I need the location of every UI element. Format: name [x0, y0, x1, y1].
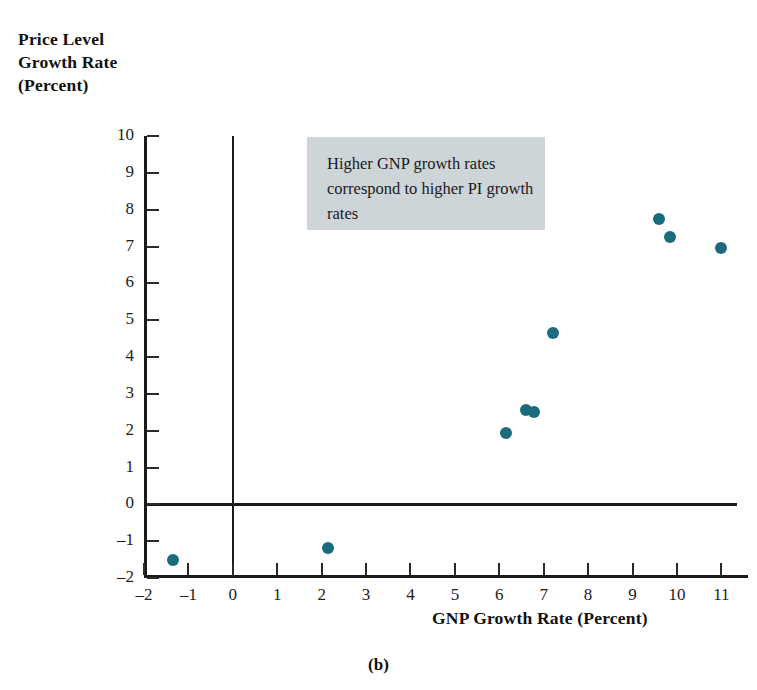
- x-tick: [498, 563, 500, 575]
- y-tick: [147, 246, 159, 248]
- y-tick-label: 8: [100, 199, 134, 219]
- x-tick: [143, 563, 145, 575]
- x-tick-label: 5: [438, 585, 472, 605]
- x-tick: [321, 563, 323, 575]
- x-tick: [454, 563, 456, 575]
- data-point: [664, 231, 676, 243]
- x-tick-label: 0: [216, 585, 250, 605]
- figure-scatter-plot: Price Level Growth Rate (Percent) GNP Gr…: [0, 0, 757, 690]
- figure-caption: (b): [0, 655, 757, 675]
- data-point: [322, 542, 334, 554]
- y-axis-title: Price Level Growth Rate (Percent): [18, 28, 118, 97]
- x-tick-label: –2: [127, 585, 161, 605]
- y-tick: [147, 540, 159, 542]
- x-tick: [276, 563, 278, 575]
- y-tick: [147, 135, 159, 137]
- x-tick-label: 2: [305, 585, 339, 605]
- y-tick-label: 9: [100, 162, 134, 182]
- data-point: [715, 242, 727, 254]
- y-axis-title-line-1: Price Level: [18, 28, 118, 51]
- zero-line-horizontal: [144, 503, 737, 506]
- x-tick: [676, 563, 678, 575]
- x-tick-label: 3: [349, 585, 383, 605]
- y-tick: [147, 172, 159, 174]
- x-tick-label: 7: [527, 585, 561, 605]
- data-point: [528, 406, 540, 418]
- x-tick-label: 10: [660, 585, 694, 605]
- x-tick: [187, 563, 189, 575]
- data-point: [500, 427, 512, 439]
- zero-line-vertical: [232, 136, 235, 578]
- data-point: [547, 327, 559, 339]
- y-tick-label: 0: [100, 493, 134, 513]
- y-tick-label: 1: [100, 457, 134, 477]
- x-tick: [587, 563, 589, 575]
- annotation-box: Higher GNP growth rates correspond to hi…: [307, 137, 545, 230]
- y-tick: [147, 467, 159, 469]
- x-tick-label: –1: [171, 585, 205, 605]
- y-tick: [147, 356, 159, 358]
- x-tick-label: 1: [260, 585, 294, 605]
- y-tick-label: 3: [100, 383, 134, 403]
- x-axis-title: GNP Growth Rate (Percent): [432, 608, 648, 629]
- y-tick: [147, 319, 159, 321]
- y-tick: [147, 282, 159, 284]
- x-tick-label: 6: [482, 585, 516, 605]
- annotation-text: Higher GNP growth rates correspond to hi…: [327, 151, 537, 226]
- y-tick-label: –2: [100, 567, 134, 587]
- y-tick: [147, 577, 159, 579]
- x-tick-label: 9: [616, 585, 650, 605]
- x-tick: [720, 563, 722, 575]
- x-tick: [543, 563, 545, 575]
- y-tick-label: 2: [100, 420, 134, 440]
- y-tick: [147, 430, 159, 432]
- x-tick-label: 11: [704, 585, 738, 605]
- y-tick: [147, 209, 159, 211]
- x-tick: [232, 563, 234, 575]
- x-tick: [409, 563, 411, 575]
- y-tick: [147, 503, 159, 505]
- y-tick-label: 4: [100, 346, 134, 366]
- data-point: [167, 554, 179, 566]
- y-axis-title-line-2: Growth Rate: [18, 51, 118, 74]
- y-tick: [147, 393, 159, 395]
- x-tick-label: 8: [571, 585, 605, 605]
- y-tick-label: 5: [100, 309, 134, 329]
- data-point: [653, 213, 665, 225]
- y-tick-label: 6: [100, 272, 134, 292]
- x-tick-label: 4: [393, 585, 427, 605]
- y-tick-label: 10: [100, 125, 134, 145]
- y-axis-title-line-3: (Percent): [18, 74, 118, 97]
- y-tick-label: –1: [100, 530, 134, 550]
- x-tick: [632, 563, 634, 575]
- axis-spine-bottom: [144, 575, 748, 578]
- y-tick-label: 7: [100, 236, 134, 256]
- x-tick: [365, 563, 367, 575]
